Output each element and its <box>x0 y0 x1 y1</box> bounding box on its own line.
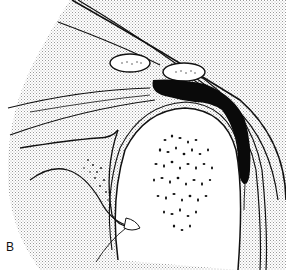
shoulder-illustration <box>0 0 286 270</box>
clavicle-bone <box>110 54 150 72</box>
panel-label: B <box>6 240 14 254</box>
acromion-bone <box>163 63 205 81</box>
